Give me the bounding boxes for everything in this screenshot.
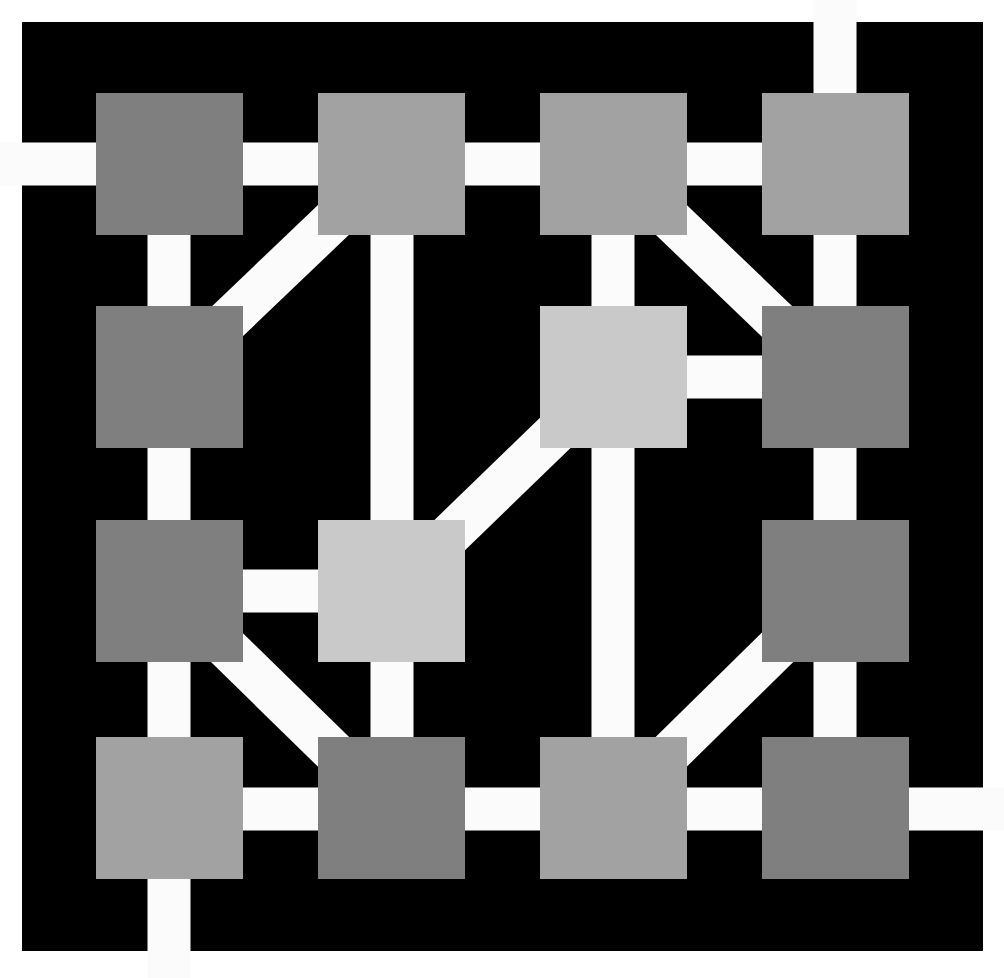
node-square-n24 <box>762 306 909 448</box>
node-square-n11 <box>96 93 243 235</box>
node-square-n44 <box>762 737 909 879</box>
node-square-n23 <box>540 306 687 448</box>
node-square-n31 <box>96 520 243 662</box>
node-square-n43 <box>540 737 687 879</box>
node-square-n14 <box>762 93 909 235</box>
node-square-n42 <box>318 737 465 879</box>
network-diagram <box>0 0 1004 978</box>
node-square-n41 <box>96 737 243 879</box>
node-square-n13 <box>540 93 687 235</box>
node-square-n12 <box>318 93 465 235</box>
node-square-n34 <box>762 520 909 662</box>
node-square-n21 <box>96 306 243 448</box>
node-square-n32 <box>318 520 465 662</box>
